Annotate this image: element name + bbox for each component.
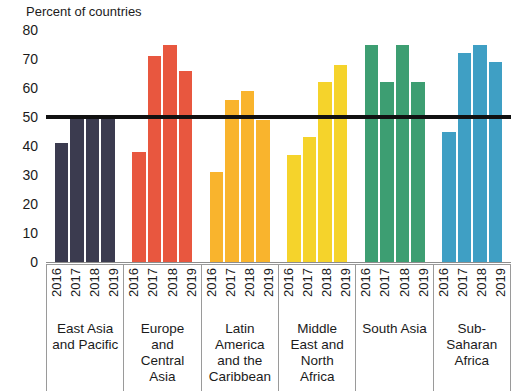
bar-2-2016 bbox=[210, 172, 224, 262]
bar-5-2016 bbox=[442, 132, 456, 263]
bar-3-2016 bbox=[287, 155, 301, 262]
y-tick-40: 40 bbox=[8, 139, 38, 153]
year-label-2016: 2016 bbox=[437, 268, 450, 297]
year-labels: 2016201720182019 bbox=[124, 265, 200, 317]
bar-4-2019 bbox=[411, 82, 425, 262]
year-label-2019: 2019 bbox=[417, 268, 430, 297]
year-labels: 2016201720182019 bbox=[202, 265, 278, 317]
bar-3-2019 bbox=[334, 65, 348, 262]
year-label-2017: 2017 bbox=[146, 268, 159, 297]
bar-4-2018 bbox=[396, 45, 410, 263]
year-label-2018: 2018 bbox=[243, 268, 256, 297]
x-axis-baseline bbox=[46, 262, 511, 263]
bar-1-2017 bbox=[148, 56, 162, 262]
group-name-label: South Asia bbox=[356, 317, 432, 391]
bar-0-2019 bbox=[101, 117, 115, 262]
year-label-2018: 2018 bbox=[475, 268, 488, 297]
year-label-2019: 2019 bbox=[185, 268, 198, 297]
year-label-2016: 2016 bbox=[282, 268, 295, 297]
year-label-2016: 2016 bbox=[359, 268, 372, 297]
x-group-2: 2016201720182019Latin America and the Ca… bbox=[202, 265, 279, 391]
bar-4-2017 bbox=[380, 82, 394, 262]
group-name-label: Sub- Saharan Africa bbox=[434, 317, 510, 391]
reference-line-50 bbox=[46, 115, 511, 119]
group-name-label: Middle East and North Africa bbox=[279, 317, 355, 391]
year-label-2016: 2016 bbox=[50, 268, 63, 297]
y-tick-30: 30 bbox=[8, 168, 38, 182]
year-label-2016: 2016 bbox=[127, 268, 140, 297]
y-tick-50: 50 bbox=[8, 110, 38, 124]
bar-5-2019 bbox=[489, 62, 503, 262]
group-name-label: East Asia and Pacific bbox=[47, 317, 123, 391]
bar-1-2016 bbox=[132, 152, 146, 262]
year-label-2019: 2019 bbox=[107, 268, 120, 297]
bar-1-2018 bbox=[163, 45, 177, 263]
y-tick-60: 60 bbox=[8, 81, 38, 95]
y-tick-70: 70 bbox=[8, 52, 38, 66]
bar-5-2017 bbox=[458, 53, 472, 262]
year-labels: 2016201720182019 bbox=[279, 265, 355, 317]
year-labels: 2016201720182019 bbox=[356, 265, 432, 317]
bar-chart: Percent of countries 01020304050607080 2… bbox=[0, 0, 513, 391]
year-label-2017: 2017 bbox=[378, 268, 391, 297]
year-label-2016: 2016 bbox=[205, 268, 218, 297]
year-label-2019: 2019 bbox=[339, 268, 352, 297]
year-label-2017: 2017 bbox=[224, 268, 237, 297]
year-label-2019: 2019 bbox=[494, 268, 507, 297]
plot-area bbox=[46, 30, 511, 262]
bar-0-2017 bbox=[70, 117, 84, 262]
y-tick-20: 20 bbox=[8, 197, 38, 211]
y-tick-80: 80 bbox=[8, 23, 38, 37]
bar-5-2018 bbox=[473, 45, 487, 263]
year-label-2018: 2018 bbox=[320, 268, 333, 297]
bar-1-2019 bbox=[179, 71, 193, 262]
x-group-3: 2016201720182019Middle East and North Af… bbox=[279, 265, 356, 391]
year-label-2018: 2018 bbox=[88, 268, 101, 297]
bar-0-2016 bbox=[55, 143, 69, 262]
year-label-2017: 2017 bbox=[69, 268, 82, 297]
year-label-2019: 2019 bbox=[262, 268, 275, 297]
chart-axis-title: Percent of countries bbox=[26, 4, 142, 19]
y-tick-10: 10 bbox=[8, 226, 38, 240]
bar-3-2018 bbox=[318, 82, 332, 262]
group-name-label: Europe and Central Asia bbox=[124, 317, 200, 391]
year-label-2018: 2018 bbox=[398, 268, 411, 297]
y-tick-0: 0 bbox=[8, 255, 38, 269]
bar-0-2018 bbox=[86, 117, 100, 262]
year-label-2018: 2018 bbox=[166, 268, 179, 297]
bar-4-2016 bbox=[365, 45, 379, 263]
year-labels: 2016201720182019 bbox=[47, 265, 123, 317]
x-group-0: 2016201720182019East Asia and Pacific bbox=[47, 265, 124, 391]
group-name-label: Latin America and the Caribbean bbox=[202, 317, 278, 391]
x-group-1: 2016201720182019Europe and Central Asia bbox=[124, 265, 201, 391]
year-labels: 2016201720182019 bbox=[434, 265, 510, 317]
bar-3-2017 bbox=[303, 137, 317, 262]
bar-2-2019 bbox=[256, 120, 270, 262]
x-group-4: 2016201720182019South Asia bbox=[356, 265, 433, 391]
year-label-2017: 2017 bbox=[301, 268, 314, 297]
year-label-2017: 2017 bbox=[456, 268, 469, 297]
bar-2-2017 bbox=[225, 100, 239, 262]
x-group-5: 2016201720182019Sub- Saharan Africa bbox=[434, 265, 511, 391]
x-axis-label-table: 2016201720182019East Asia and Pacific201… bbox=[46, 264, 511, 391]
